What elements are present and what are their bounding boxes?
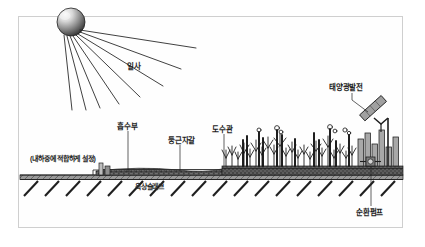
label-load-note: (내하중에 적합하게 설정) bbox=[30, 155, 120, 164]
vegetation-icon bbox=[222, 125, 356, 166]
label-absorber: 흡수부 bbox=[117, 122, 137, 131]
sun-icon bbox=[57, 8, 85, 36]
standpipe-icon bbox=[93, 163, 110, 175]
gravel-layer-icon bbox=[96, 166, 403, 175]
planter-blocks-icon bbox=[358, 130, 399, 166]
slab-layer-icon bbox=[20, 175, 403, 180]
label-solar-pv: 태양광발전 bbox=[329, 83, 363, 92]
label-insolation: 일사 bbox=[127, 62, 141, 71]
label-round-gravel: 둥근자갈 bbox=[168, 136, 195, 145]
label-rooftop-slab: 옥상슬래브 bbox=[135, 183, 164, 192]
label-water-conduit: 도수관 bbox=[212, 125, 232, 134]
structural-hatch-icon bbox=[24, 181, 395, 196]
figure-root: 일사 흡수부 둥근자갈 도수관 태양광발전 순환펌프 옥상슬래브 (내하중에 적… bbox=[0, 0, 425, 247]
leader-lines bbox=[128, 93, 371, 206]
label-circulation-pump: 순환펌프 bbox=[356, 208, 383, 217]
